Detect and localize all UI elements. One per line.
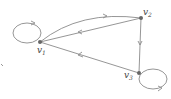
node-label-v3: v3 bbox=[124, 70, 133, 81]
node-label-v2: v2 bbox=[143, 7, 152, 18]
stray-mark bbox=[1, 64, 3, 66]
node-v3 bbox=[137, 71, 141, 75]
directed-graph: v1 v2 v3 bbox=[0, 0, 171, 99]
edge-v2-v1 bbox=[40, 18, 141, 42]
edge-v3-v3-loop bbox=[139, 69, 167, 89]
edge-v3-v1 bbox=[40, 42, 139, 73]
edge-v1-v1-loop bbox=[13, 23, 41, 43]
node-label-v1: v1 bbox=[37, 45, 46, 56]
arrow-icon bbox=[103, 14, 107, 18]
node-v1 bbox=[38, 40, 42, 44]
